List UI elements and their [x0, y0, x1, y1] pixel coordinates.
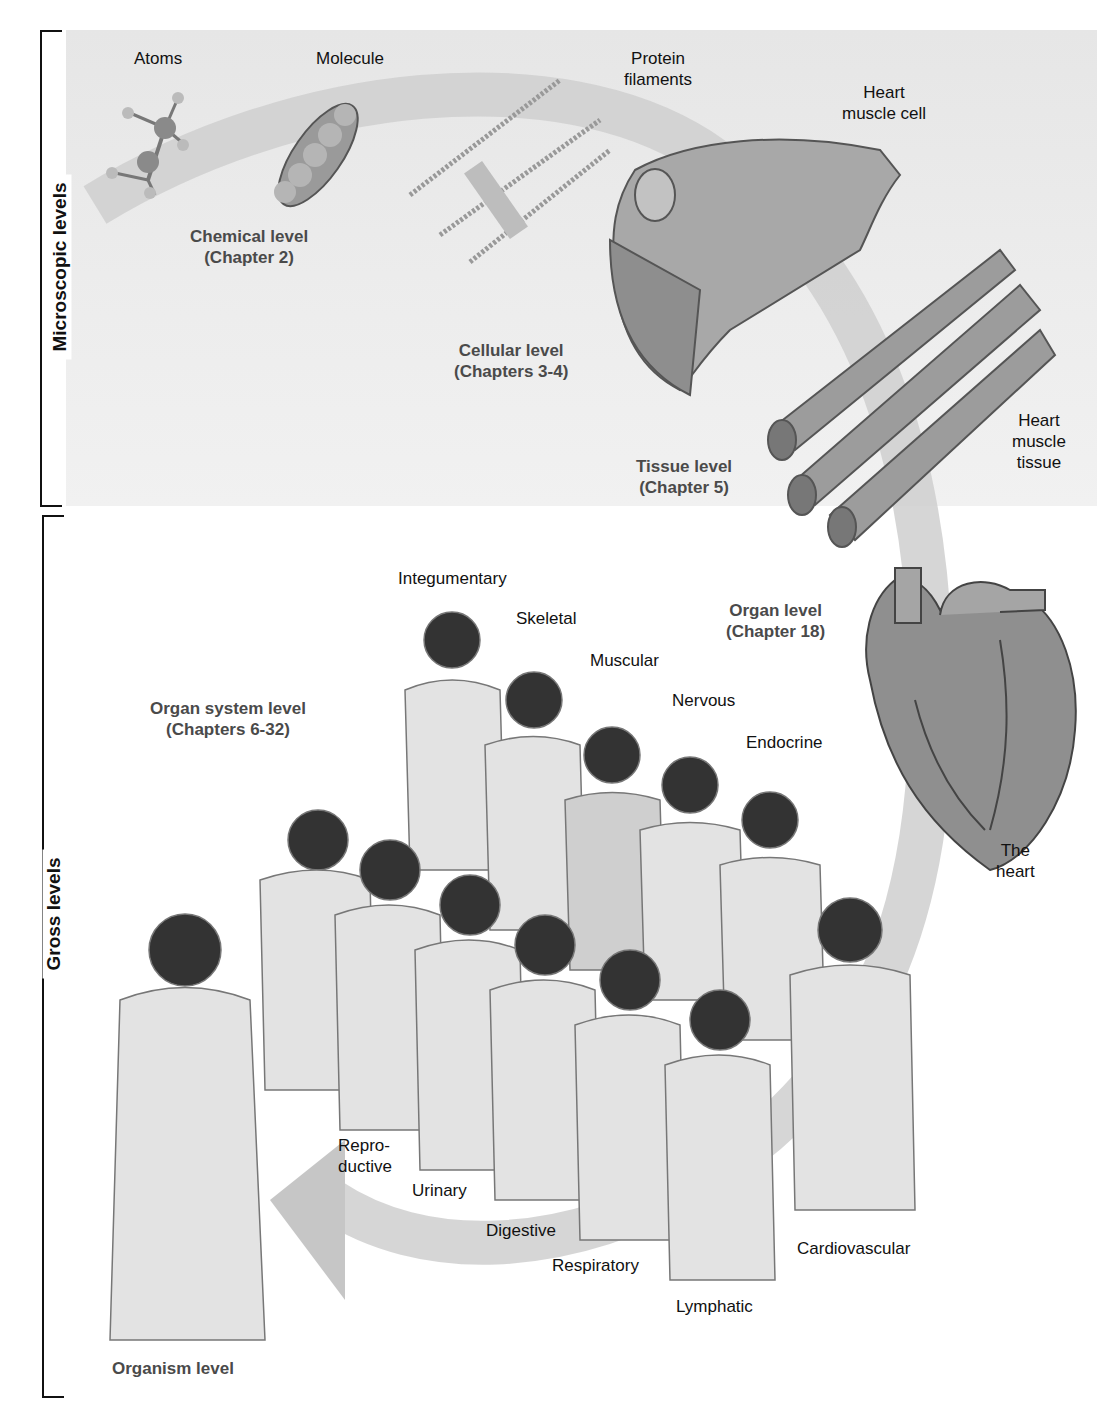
micro-bracket-top	[40, 30, 62, 32]
organism-figure	[110, 914, 265, 1340]
molecule-label: Molecule	[316, 48, 384, 69]
micro-bracket	[40, 30, 42, 506]
muscular-label: Muscular	[590, 650, 659, 671]
heart-muscle-cell-label: Heart muscle cell	[842, 82, 926, 124]
the-heart-label: The heart	[996, 840, 1035, 882]
skeletal-label: Skeletal	[516, 608, 576, 629]
arrow-head	[270, 1140, 345, 1300]
tissue-level-label: Tissue level (Chapter 5)	[636, 456, 732, 498]
gross-bracket-top	[42, 515, 64, 517]
microscopic-levels-label: Microscopic levels	[49, 175, 71, 360]
reproductive-label: Repro- ductive	[338, 1135, 392, 1177]
heart-muscle-tissue-label: Heart muscle tissue	[1012, 410, 1066, 473]
nervous-label: Nervous	[672, 690, 735, 711]
cellular-level-label: Cellular level (Chapters 3-4)	[454, 340, 568, 382]
organ-level-label: Organ level (Chapter 18)	[726, 600, 825, 642]
heart-illustration	[866, 568, 1076, 870]
urinary-label: Urinary	[412, 1180, 467, 1201]
lymphatic-label: Lymphatic	[676, 1296, 753, 1317]
gross-levels-label: Gross levels	[43, 849, 65, 978]
chemical-level-label: Chemical level (Chapter 2)	[190, 226, 308, 268]
digestive-label: Digestive	[486, 1220, 556, 1241]
respiratory-label: Respiratory	[552, 1255, 639, 1276]
gross-bracket-bottom	[42, 1396, 64, 1398]
atoms-label: Atoms	[134, 48, 182, 69]
endocrine-label: Endocrine	[746, 732, 823, 753]
integumentary-label: Integumentary	[398, 568, 507, 589]
organ-system-level-label: Organ system level (Chapters 6-32)	[150, 698, 306, 740]
cardiovascular-label: Cardiovascular	[797, 1238, 910, 1259]
micro-bracket-bottom	[40, 505, 62, 507]
organism-level-label: Organism level	[112, 1358, 234, 1379]
protein-filaments-label: Protein filaments	[624, 48, 692, 90]
